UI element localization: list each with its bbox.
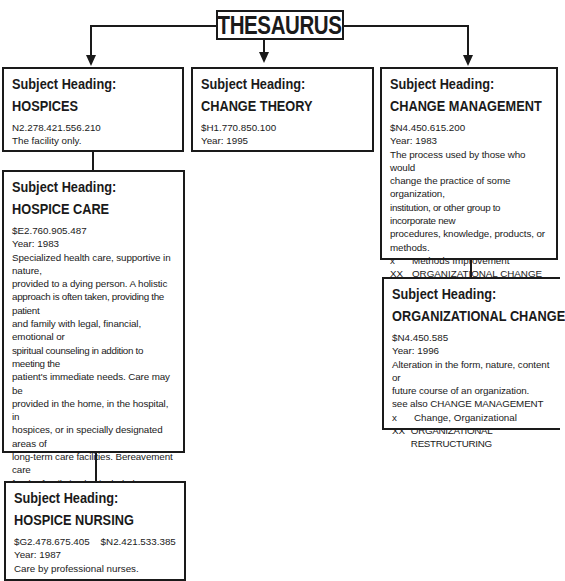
tree-code: $N4.450.615.200: [390, 121, 548, 134]
scope-note-line: The facility only.: [12, 134, 174, 147]
year: Year: 1996: [392, 344, 552, 357]
cross-reference: XX ORGANIZATIONAL RESTRUCTURING: [392, 424, 552, 451]
scope-note-line: The process used by those who would: [390, 148, 548, 175]
scope-note-line: provided to a dying person. A holistic: [12, 277, 175, 290]
scope-note-line: future course of an organization.: [392, 384, 552, 397]
scope-note-line: approach is often taken, providing the p…: [12, 290, 175, 317]
ref-term: Methods Improvement: [412, 254, 509, 267]
tree-code: $N4.450.585: [392, 331, 552, 344]
subject-heading-label: Subject Heading:: [14, 489, 157, 507]
see-also-line: see also CHANGE MANAGEMENT: [392, 397, 552, 410]
ref-code: x: [390, 254, 412, 267]
scope-note-line: Care by professional nurses.: [14, 562, 176, 575]
year: Year: 1995: [201, 134, 364, 147]
scope-note-line: provided in the home, in the hospital, i…: [12, 397, 175, 424]
subject-heading-label: Subject Heading:: [390, 75, 529, 93]
card-hospice-care: Subject Heading: HOSPICE CARE $E2.760.90…: [2, 170, 185, 453]
subject-heading-title: HOSPICES: [12, 97, 155, 115]
thesaurus-title-box: THESAURUS: [216, 10, 344, 40]
arrow-down-icon: [86, 55, 96, 66]
ref-term: ORGANIZATIONAL RESTRUCTURING: [411, 424, 552, 451]
subject-heading-label: Subject Heading:: [392, 285, 533, 303]
arrow-down-icon: [259, 52, 269, 63]
subject-heading-label: Subject Heading:: [12, 75, 155, 93]
subject-heading-label: Subject Heading:: [201, 75, 344, 93]
scope-note-line: change the practice of some organization…: [390, 174, 548, 201]
subject-heading-label: Subject Heading:: [12, 178, 155, 196]
scope-note-line: Specialized health care, supportive in n…: [12, 251, 175, 278]
subject-heading-title: ORGANIZATIONAL CHANGE: [392, 307, 533, 325]
card-change-theory: Subject Heading: CHANGE THEORY $H1.770.8…: [191, 67, 374, 152]
year: Year: 1983: [12, 237, 175, 250]
tree-code: N2.278.421.556.210: [12, 121, 174, 134]
scope-note-line: patient's immediate needs. Care may be: [12, 370, 175, 397]
year: Year: 1987: [14, 548, 176, 561]
connector-top-right-horizontal: [343, 25, 469, 27]
year: Year: 1983: [390, 134, 548, 147]
card-organizational-change: Subject Heading: ORGANIZATIONAL CHANGE $…: [382, 277, 560, 430]
ref-code: x: [392, 411, 414, 424]
tree-code: $E2.760.905.487: [12, 224, 175, 237]
connector-hospices-to-hospice-care: [92, 151, 94, 171]
scope-note-line: Alteration in the form, nature, content …: [392, 358, 552, 385]
connector-top-left-vertical: [90, 25, 92, 58]
scope-note-line: methods.: [390, 241, 548, 254]
connector-top-left-horizontal: [90, 25, 217, 27]
connector-top-right-vertical: [467, 25, 469, 58]
ref-code: XX: [392, 424, 411, 451]
card-hospices: Subject Heading: HOSPICES N2.278.421.556…: [2, 67, 184, 152]
scope-note-line: spiritual counseling in addition to meet…: [12, 344, 175, 371]
scope-note-line: hospices, or in specially designated are…: [12, 423, 175, 450]
arrow-down-icon: [463, 55, 473, 66]
subject-heading-title: CHANGE THEORY: [201, 97, 344, 115]
scope-note-line: institution, or other group to incorpora…: [390, 201, 548, 228]
subject-heading-title: CHANGE MANAGEMENT: [390, 97, 529, 115]
tree-code: $G2.478.675.405 $N2.421.533.385: [14, 535, 176, 548]
tree-code: $H1.770.850.100: [201, 121, 364, 134]
page-title: THESAURUS: [218, 11, 342, 40]
card-change-management: Subject Heading: CHANGE MANAGEMENT $N4.4…: [380, 67, 558, 260]
cross-reference: x Change, Organizational: [392, 411, 552, 424]
scope-note-line: long-term care facilities. Bereavement c…: [12, 450, 175, 477]
scope-note-line: and family with legal, financial, emotio…: [12, 317, 175, 344]
cross-reference: x Methods Improvement: [390, 254, 548, 267]
card-hospice-nursing: Subject Heading: HOSPICE NURSING $G2.478…: [4, 481, 186, 581]
subject-heading-title: HOSPICE CARE: [12, 200, 155, 218]
ref-term: Change, Organizational: [414, 411, 517, 424]
subject-heading-title: HOSPICE NURSING: [14, 511, 157, 529]
scope-note-line: procedures, knowledge, products, or: [390, 227, 548, 240]
